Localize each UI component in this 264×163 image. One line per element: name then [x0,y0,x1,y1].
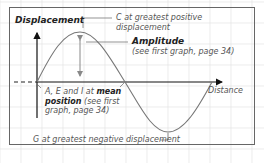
amplitude-label: Amplitude (see first graph, page 34) [132,37,234,56]
c-label-line1: C at greatest positive [116,13,202,23]
x-axis-label: Distance [208,86,243,96]
mean-label-line1: A, E and I at mean [45,87,121,97]
mean-position-label: A, E and I at mean position (see first g… [45,87,121,116]
amplitude-note: (see first graph, page 34) [132,47,234,57]
position-bold: position [45,97,81,106]
mean-label-line2: position (see first [45,97,121,107]
g-label: G at greatest negative displacement [33,135,180,145]
c-label-line2: displacement [116,23,202,33]
mean-prefix: A, E and I at [45,87,96,96]
mean-label-line3: graph, page 34) [45,106,121,116]
mean-rest: (see first [81,97,119,106]
y-axis-label: Displacement [15,15,84,25]
mean-bold: mean [96,87,121,96]
wave-diagram: Displacement C at greatest positive disp… [0,0,264,163]
c-label: C at greatest positive displacement [116,13,202,32]
amplitude-title: Amplitude [132,37,234,47]
